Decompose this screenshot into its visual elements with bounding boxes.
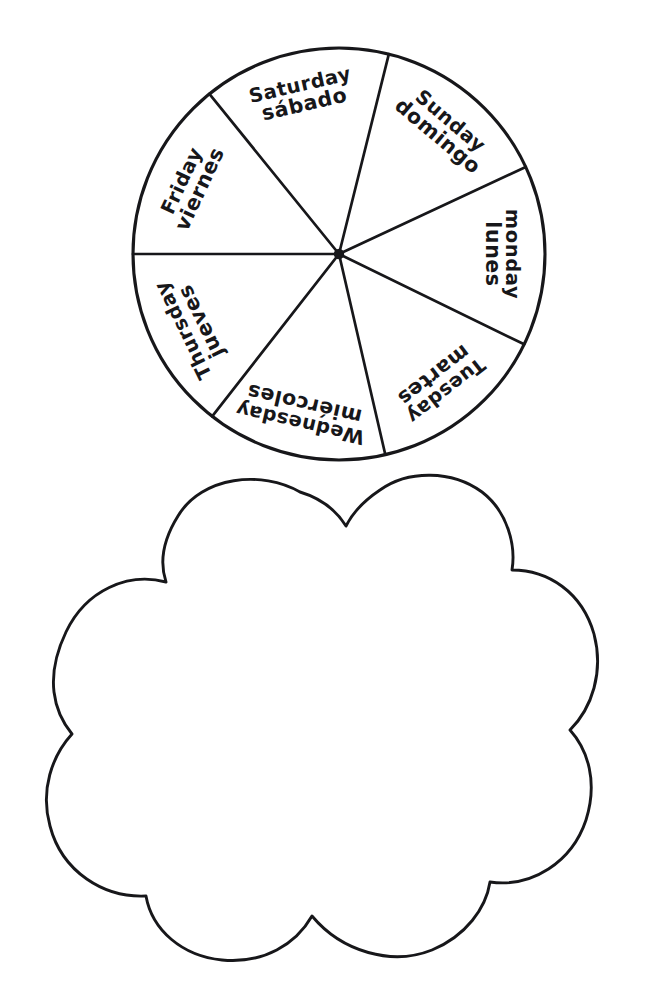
wheel-spoke-group xyxy=(133,54,526,455)
wheel-segment-tuesday[interactable]: Tuesdaymartes xyxy=(390,337,490,428)
wheel-segment-saturday[interactable]: Saturdaysábado xyxy=(247,62,358,127)
wheel-center-pivot-dot[interactable] xyxy=(334,249,344,259)
cloud-cutout-region[interactable] xyxy=(46,475,597,960)
wheel-segment-thursday[interactable]: Thursdayjueves xyxy=(149,268,234,382)
wheel-segment-monday[interactable]: mondaylunes xyxy=(481,209,524,299)
worksheet-page: SundaydomingomondaylunesTuesdaymartesWed… xyxy=(0,0,667,991)
days-of-the-week-wheel[interactable]: SundaydomingomondaylunesTuesdaymartesWed… xyxy=(133,48,545,460)
worksheet-canvas: SundaydomingomondaylunesTuesdaymartesWed… xyxy=(0,0,667,991)
wheel-segment-friday[interactable]: Fridayviernes xyxy=(152,135,229,234)
wheel-segment-sunday[interactable]: Sundaydomingo xyxy=(390,79,498,179)
segment-label-spanish: lunes xyxy=(481,221,505,286)
cloud-cutout-outline xyxy=(46,475,597,960)
wheel-segment-wednesday[interactable]: Wednesdaymiércoles xyxy=(233,378,371,449)
footer-watermark xyxy=(392,974,654,987)
